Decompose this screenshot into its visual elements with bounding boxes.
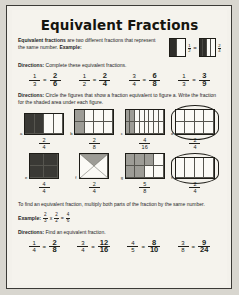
directions-1: Directions: Complete these equivalent fr… (12, 62, 227, 69)
fraction-denominator: 16 (98, 247, 110, 254)
fraction-left: 13 (29, 73, 40, 87)
figure-label: f (75, 175, 76, 180)
empty-cell (94, 122, 104, 134)
example-2-b: 2 2 (54, 213, 59, 224)
empty-cell (44, 114, 54, 134)
fraction-numerator: 3 (129, 73, 140, 81)
fraction-denominator: 3 (29, 81, 40, 88)
figure-item[interactable]: g58 (121, 153, 169, 194)
figure-answer-fraction[interactable]: 24 (189, 137, 200, 150)
empty-cell (85, 110, 95, 122)
equation-row-2: 14=2834=121645=81038=924 (12, 240, 227, 254)
empty-cell (185, 158, 195, 178)
figure-item[interactable]: a24 (20, 113, 68, 150)
directions-1-label: Directions: (18, 62, 44, 68)
fraction-numerator: 4 (127, 240, 138, 248)
empty-cell (176, 122, 186, 134)
fraction-numerator: 1 (178, 73, 189, 81)
directions-2: Directions: Circle the figures that show… (12, 92, 227, 106)
figure-answer-fraction[interactable]: 24 (39, 137, 50, 150)
example-2-label: Example: (18, 215, 41, 221)
page-title: Equivalent Fractions (12, 17, 227, 33)
figure-label: e (25, 175, 27, 180)
answer-denominator: 4 (89, 188, 100, 194)
fraction-denominator: 5 (127, 247, 138, 254)
figure-item[interactable]: b28 (70, 109, 118, 150)
shaded-cell (44, 166, 58, 178)
answer-denominator: 4 (189, 144, 200, 150)
example-2-times: x (50, 215, 53, 221)
fraction-right: 28 (49, 240, 60, 254)
equals-sign: = (192, 244, 196, 250)
example-2-a: 2 3 (43, 213, 48, 224)
fraction-numerator: 3 (178, 240, 189, 248)
example-fraction-right: 2 4 (218, 44, 221, 54)
directions-2-label: Directions: (18, 92, 44, 98)
fraction-left: 34 (129, 73, 140, 87)
directions-3: Directions: Find an equivalent fraction. (12, 229, 227, 236)
shaded-cell (135, 154, 145, 166)
figure-item[interactable]: f24 (70, 153, 118, 194)
figure-label: g (121, 175, 123, 180)
fraction-left: 12 (79, 73, 90, 87)
example-2-c: 4 6 (66, 213, 71, 224)
fraction-denominator: 6 (50, 81, 61, 88)
empty-cell (159, 122, 164, 134)
fraction-left: 38 (178, 240, 189, 254)
answer-numerator: 2 (189, 181, 200, 188)
worksheet-page: Equivalent Fractions Equivalent fraction… (6, 5, 232, 289)
fraction-denominator: 4 (99, 81, 110, 88)
shaded-cell (25, 114, 35, 134)
example-bar-right (199, 38, 216, 57)
fraction-equation: 38=924 (178, 240, 211, 254)
shaded-cell (75, 110, 85, 122)
empty-cell (54, 114, 64, 134)
answer-denominator: 16 (139, 144, 150, 150)
answer-numerator: 2 (39, 137, 50, 144)
example-bar-left (169, 38, 186, 57)
fraction-denominator: 2 (79, 81, 90, 88)
figure-answer-fraction[interactable]: 416 (139, 137, 150, 150)
fraction-right: 68 (149, 73, 160, 87)
intro-section: Equivalent fractions are two different f… (12, 37, 227, 57)
intro-text: Equivalent fractions are two different f… (18, 37, 163, 51)
fraction-denominator: 9 (199, 81, 210, 88)
figure-item[interactable]: c416 (121, 109, 169, 150)
note-text: To find an equivalent fraction, multiply… (12, 201, 227, 208)
fraction-left: 13 (178, 73, 189, 87)
answer-numerator: 2 (89, 137, 100, 144)
example-2: Example: 2 3 x 2 2 = 4 6 (12, 213, 227, 224)
answer-denominator: 4 (189, 188, 200, 194)
figure-label: c (121, 131, 123, 136)
equals-sign: = (91, 244, 95, 250)
fraction-equation: 34=1216 (77, 240, 110, 254)
fraction-right: 810 (148, 240, 160, 254)
fraction-numerator: 1 (29, 73, 40, 81)
fraction-right: 39 (199, 73, 210, 87)
fraction-equation: 45=810 (127, 240, 160, 254)
figure-answer-fraction[interactable]: 24 (189, 181, 200, 194)
empty-cell (185, 122, 195, 134)
figure-row-1: a24b28c416d24 (12, 109, 227, 150)
fraction-denominator: 10 (148, 247, 160, 254)
fraction-numerator: 1 (29, 240, 40, 248)
equals-sign: = (192, 77, 196, 83)
figure-answer-fraction[interactable]: 44 (39, 181, 50, 194)
figure-item[interactable]: h24 (171, 157, 219, 194)
answer-numerator: 4 (139, 137, 150, 144)
fraction-denominator: 8 (49, 247, 60, 254)
empty-cell (195, 158, 205, 178)
empty-cell (104, 122, 114, 134)
figure-answer-fraction[interactable]: 24 (89, 181, 100, 194)
directions-2-text: Circle the figures that show a fraction … (18, 92, 216, 105)
fraction-denominator: 8 (178, 247, 189, 254)
figure-grid (29, 153, 59, 179)
fraction-left: 14 (29, 240, 40, 254)
figure-answer-fraction[interactable]: 28 (89, 137, 100, 150)
empty-cell (204, 158, 214, 178)
equals-sign: = (141, 244, 145, 250)
example-equals: = (193, 45, 197, 51)
figure-item[interactable]: d24 (171, 109, 219, 150)
figure-item[interactable]: e44 (20, 153, 68, 194)
figure-answer-fraction[interactable]: 58 (139, 181, 150, 194)
